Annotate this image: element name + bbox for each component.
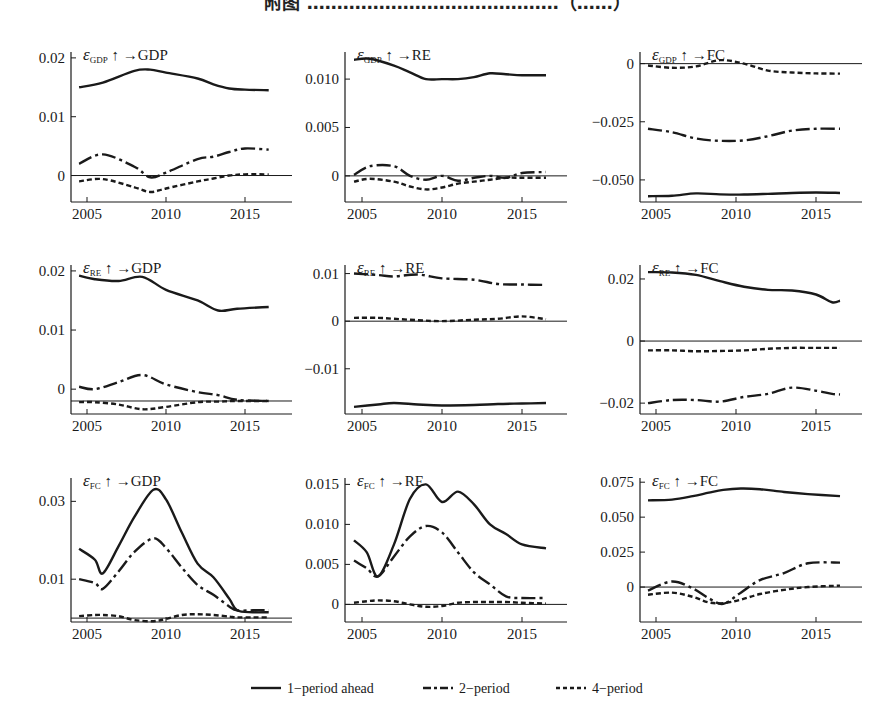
x-tick-label: 2015 xyxy=(507,626,537,642)
series-line-s1 xyxy=(354,58,546,79)
x-tick-label: 2015 xyxy=(507,418,537,434)
series-line-s2 xyxy=(79,148,269,177)
x-tick-label: 2005 xyxy=(641,206,671,222)
y-tick-label: 0 xyxy=(627,579,635,595)
y-tick-label: 0 xyxy=(332,168,340,184)
y-tick-label: 0.075 xyxy=(600,474,634,490)
y-tick-label: 0.010 xyxy=(305,516,339,532)
panel-title: εRE ↑ →GDP xyxy=(83,258,161,278)
y-tick-label: 0.005 xyxy=(305,119,339,135)
x-tick-label: 2005 xyxy=(72,206,102,222)
y-tick-label: 0.02 xyxy=(608,271,634,287)
y-tick-label: 0.01 xyxy=(39,109,65,125)
y-tick-label: 0.01 xyxy=(313,266,339,282)
panel-re-to-re: −0.0100.01200520102015εRE ↑ →RE xyxy=(304,258,567,434)
y-tick-label: 0 xyxy=(58,168,66,184)
y-tick-label: 0.025 xyxy=(600,544,634,560)
x-tick-label: 2005 xyxy=(347,418,377,434)
legend-item-s1: 1−period ahead xyxy=(251,681,374,696)
series-line-s1 xyxy=(354,484,546,576)
x-tick-label: 2015 xyxy=(230,206,260,222)
y-tick-label: 0.01 xyxy=(39,571,65,587)
y-tick-label: 0 xyxy=(627,56,635,72)
x-tick-label: 2005 xyxy=(641,418,671,434)
y-tick-label: 0.005 xyxy=(305,556,339,572)
series-line-s1 xyxy=(354,403,546,407)
y-tick-label: 0 xyxy=(332,596,340,612)
x-tick-label: 2005 xyxy=(72,626,102,642)
panel-grid: 00.010.02200520102015εGDP ↑ →GDP00.0050.… xyxy=(39,45,862,642)
panel-title: εFC ↑ →RE xyxy=(357,471,424,491)
legend-item-s2: 2−period xyxy=(423,681,510,696)
x-tick-label: 2005 xyxy=(347,626,377,642)
x-tick-label: 2010 xyxy=(151,626,181,642)
series-line-s1 xyxy=(648,192,840,196)
y-tick-label: −0.025 xyxy=(592,114,634,130)
x-tick-label: 2005 xyxy=(641,626,671,642)
panel-fc-to-fc: 00.0250.0500.075200520102015εFC ↑ →FC xyxy=(600,471,862,642)
x-tick-label: 2010 xyxy=(721,206,751,222)
y-tick-label: 0.050 xyxy=(600,509,634,525)
legend-label: 4−period xyxy=(592,681,643,696)
legend: 1−period ahead2−period4−period xyxy=(251,681,643,696)
y-tick-label: 0.015 xyxy=(305,476,339,492)
y-tick-label: −0.02 xyxy=(599,395,634,411)
y-tick-label: 0 xyxy=(627,333,635,349)
panel-title: εFC ↑ →GDP xyxy=(83,471,161,491)
x-tick-label: 2010 xyxy=(721,626,751,642)
x-tick-label: 2010 xyxy=(151,206,181,222)
series-line-s4 xyxy=(354,316,546,321)
series-line-s2 xyxy=(354,274,546,285)
x-tick-label: 2015 xyxy=(230,418,260,434)
x-tick-label: 2015 xyxy=(230,626,260,642)
panel-gdp-to-re: 00.0050.010200520102015εGDP ↑ →RE xyxy=(305,45,567,222)
y-tick-label: 0.02 xyxy=(39,263,65,279)
y-tick-label: 0.01 xyxy=(39,322,65,338)
legend-label: 1−period ahead xyxy=(287,681,374,696)
y-tick-label: 0.010 xyxy=(305,71,339,87)
series-line-s4 xyxy=(79,174,269,192)
series-line-s4 xyxy=(79,401,269,409)
series-line-s2 xyxy=(79,538,269,610)
y-tick-label: −0.050 xyxy=(592,172,634,188)
y-tick-label: 0 xyxy=(332,313,340,329)
series-line-s2 xyxy=(354,165,546,181)
series-line-s4 xyxy=(354,600,546,606)
y-tick-label: 0 xyxy=(58,381,66,397)
series-line-s1 xyxy=(648,272,840,302)
panel-gdp-to-gdp: 00.010.02200520102015εGDP ↑ →GDP xyxy=(39,45,292,222)
x-tick-label: 2010 xyxy=(721,418,751,434)
x-tick-label: 2005 xyxy=(347,206,377,222)
x-tick-label: 2005 xyxy=(72,418,102,434)
legend-item-s4: 4−period xyxy=(556,681,643,696)
panel-title: εRE ↑ →FC xyxy=(652,258,719,278)
x-tick-label: 2010 xyxy=(151,418,181,434)
series-line-s4 xyxy=(648,348,840,352)
series-line-s1 xyxy=(79,489,269,613)
y-tick-label: −0.01 xyxy=(304,361,339,377)
series-line-s2 xyxy=(648,129,840,141)
y-tick-label: 0.03 xyxy=(39,493,65,509)
x-tick-label: 2015 xyxy=(801,418,831,434)
series-line-s2 xyxy=(354,526,546,598)
series-line-s2 xyxy=(648,388,840,404)
panel-gdp-to-fc: −0.050−0.0250200520102015εGDP ↑ →FC xyxy=(592,45,862,222)
panel-re-to-gdp: 00.010.02200520102015εRE ↑ →GDP xyxy=(39,258,292,434)
series-line-s1 xyxy=(648,488,840,500)
series-line-s1 xyxy=(79,276,269,311)
panel-fc-to-re: 00.0050.0100.015200520102015εFC ↑ →RE xyxy=(305,471,567,642)
legend-label: 2−period xyxy=(459,681,510,696)
x-tick-label: 2010 xyxy=(427,206,457,222)
panel-title: εGDP ↑ →RE xyxy=(357,45,431,65)
panel-fc-to-gdp: 0.010.03200520102015εFC ↑ →GDP xyxy=(39,471,292,642)
x-tick-label: 2015 xyxy=(801,206,831,222)
panel-re-to-fc: −0.0200.02200520102015εRE ↑ →FC xyxy=(599,258,862,434)
x-tick-label: 2010 xyxy=(427,626,457,642)
x-tick-label: 2015 xyxy=(507,206,537,222)
series-line-s1 xyxy=(79,69,269,90)
y-tick-label: 0.02 xyxy=(39,50,65,66)
x-tick-label: 2010 xyxy=(427,418,457,434)
series-line-s2 xyxy=(79,375,269,401)
x-tick-label: 2015 xyxy=(801,626,831,642)
panel-title: εFC ↑ →FC xyxy=(652,471,718,491)
